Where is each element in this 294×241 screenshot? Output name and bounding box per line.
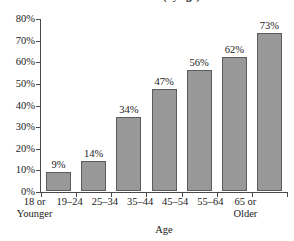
y-axis-tick (36, 62, 41, 63)
bar-value-label: 34% (119, 105, 138, 116)
y-axis-tick (36, 84, 41, 85)
bar (187, 70, 212, 191)
y-axis-tick (36, 170, 41, 171)
x-axis-tick (287, 192, 288, 197)
bar (222, 57, 247, 191)
y-axis-label: 60% (16, 57, 35, 68)
bar-value-label: 73% (260, 21, 279, 32)
plot-area: 0%10%20%30%40%50%60%70%80% 9%14%34%47%56… (41, 19, 287, 192)
bar-chart: use the service (by age) 0%10%20%30%40%5… (0, 0, 294, 241)
y-axis-tick (36, 127, 41, 128)
y-axis-tick (36, 149, 41, 150)
x-axis-line (40, 192, 288, 193)
bar (152, 89, 177, 191)
y-axis-tick (36, 19, 41, 20)
y-axis-label: 50% (16, 79, 35, 90)
bar (257, 33, 282, 191)
bar-value-label: 47% (154, 77, 173, 88)
y-axis-label: 70% (16, 35, 35, 46)
bar-value-label: 56% (190, 58, 209, 69)
x-axis-category-label: 65 orOlder (221, 196, 269, 219)
y-axis-label: 40% (16, 100, 35, 111)
chart-title: use the service (by age) (0, 0, 294, 2)
y-axis-tick (36, 106, 41, 107)
bar-value-label: 9% (52, 160, 66, 171)
bar-value-label: 14% (84, 149, 103, 160)
y-axis-label: 10% (16, 165, 35, 176)
bar (81, 161, 106, 191)
y-axis-tick (36, 41, 41, 42)
bar-value-label: 62% (225, 45, 244, 56)
x-axis-title: Age (41, 224, 287, 235)
y-axis-label: 80% (16, 14, 35, 25)
bar (116, 117, 141, 191)
y-axis-label: 20% (16, 144, 35, 155)
bar (46, 172, 71, 191)
y-axis-label: 30% (16, 122, 35, 133)
